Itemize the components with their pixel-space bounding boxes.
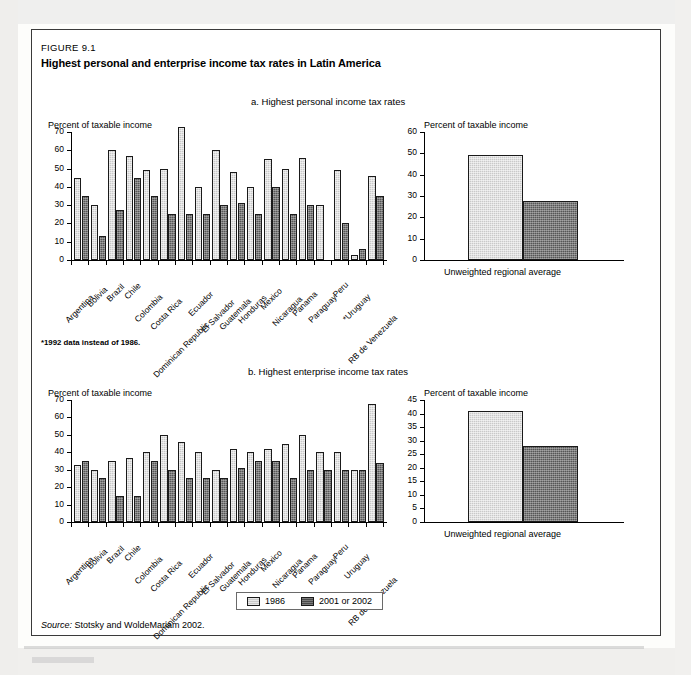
bar-2001-2002 — [238, 468, 245, 522]
x-axis — [71, 260, 387, 261]
y-tick-label: 30 — [38, 199, 64, 209]
bar-1986 — [212, 150, 219, 260]
bar-1986 — [230, 449, 237, 522]
x-tick — [158, 523, 159, 527]
bar-2001-2002 — [116, 210, 123, 260]
bar-2001-2002 — [168, 214, 175, 260]
y-tick-label: 0 — [38, 516, 64, 526]
y-tick — [420, 153, 424, 154]
y-tick — [67, 400, 71, 401]
bar-2001-2002 — [99, 236, 106, 260]
x-tick — [314, 523, 315, 527]
bar-1986 — [264, 449, 271, 522]
bar-1986 — [334, 170, 341, 260]
x-tick — [366, 523, 367, 527]
y-tick-label: 40 — [38, 446, 64, 456]
bar-2001-2002 — [186, 214, 193, 260]
bar-1986 — [108, 461, 115, 522]
bar-1986 — [143, 452, 150, 522]
y-tick-label: 40 — [391, 169, 417, 179]
x-axis — [424, 260, 624, 261]
x-tick — [192, 523, 193, 527]
x-tick — [123, 523, 124, 527]
x-tick — [140, 523, 141, 527]
figure-title: Highest personal and enterprise income t… — [41, 57, 381, 69]
bar-1986 — [247, 452, 254, 522]
x-tick — [210, 523, 211, 527]
scan-artifact-line — [24, 646, 644, 649]
x-tick — [227, 261, 228, 265]
y-tick — [67, 169, 71, 170]
bar-1986 — [247, 187, 254, 260]
y-tick-label: 50 — [38, 163, 64, 173]
category-label: Unweighted regional average — [444, 529, 561, 539]
bar-1986 — [316, 205, 323, 260]
bar-1986 — [212, 470, 219, 522]
y-tick — [420, 132, 424, 133]
y-tick-label: 30 — [391, 435, 417, 445]
y-tick-label: 60 — [38, 411, 64, 421]
x-tick — [71, 261, 72, 265]
y-tick — [67, 487, 71, 488]
bar-2001-2002 — [523, 446, 578, 522]
y-tick-label: 40 — [38, 181, 64, 191]
panel-b-country-chart: 010203040506070ArgentinaBoliviaBrazilChi… — [71, 400, 383, 522]
y-tick-label: 20 — [38, 217, 64, 227]
bar-1986 — [74, 465, 81, 523]
panel-b-average-chart: 051015202530354045Unweighted regional av… — [424, 400, 624, 522]
x-tick — [244, 261, 245, 265]
x-tick — [88, 261, 89, 265]
bar-2001-2002 — [272, 461, 279, 522]
x-tick — [192, 261, 193, 265]
bar-2001-2002 — [376, 196, 383, 260]
bar-2001-2002 — [186, 478, 193, 522]
x-tick — [331, 523, 332, 527]
panel-b-title: b. Highest enterprise income tax rates — [248, 366, 408, 377]
figure-number: FIGURE 9.1 — [41, 42, 96, 53]
x-tick — [314, 261, 315, 265]
y-tick-label: 35 — [391, 421, 417, 431]
y-tick — [67, 223, 71, 224]
bar-1986 — [468, 155, 523, 260]
x-tick — [210, 261, 211, 265]
bar-2001-2002 — [376, 463, 383, 522]
bar-2001-2002 — [523, 201, 578, 260]
y-tick-label: 0 — [38, 254, 64, 264]
bar-2001-2002 — [99, 478, 106, 522]
bar-1986 — [264, 159, 271, 260]
x-tick — [106, 523, 107, 527]
y-tick — [67, 505, 71, 506]
bar-2001-2002 — [290, 478, 297, 522]
y-tick — [420, 196, 424, 197]
bar-2001-2002 — [82, 196, 89, 260]
page-edge-right — [675, 0, 691, 675]
legend-label-1986: 1986 — [265, 596, 285, 606]
y-tick-label: 70 — [38, 126, 64, 136]
bar-1986 — [160, 169, 167, 260]
scanned-page: FIGURE 9.1 Highest personal and enterpri… — [0, 0, 691, 675]
bar-1986 — [334, 452, 341, 522]
bar-1986 — [195, 187, 202, 260]
x-tick — [244, 523, 245, 527]
bar-2001-2002 — [168, 470, 175, 522]
y-tick-label: 45 — [391, 394, 417, 404]
bar-1986 — [195, 452, 202, 522]
bar-2001-2002 — [359, 470, 366, 522]
y-axis — [71, 132, 72, 261]
bar-2001-2002 — [220, 478, 227, 522]
legend-swatch-1986-icon — [247, 597, 260, 606]
bar-1986 — [299, 435, 306, 522]
panel-a-title: a. Highest personal income tax rates — [251, 96, 405, 107]
y-tick — [67, 187, 71, 188]
y-tick-label: 10 — [391, 233, 417, 243]
y-tick — [67, 205, 71, 206]
y-tick-label: 5 — [391, 502, 417, 512]
bar-2001-2002 — [220, 205, 227, 260]
y-tick-label: 50 — [38, 429, 64, 439]
y-tick — [420, 427, 424, 428]
bar-2001-2002 — [272, 187, 279, 260]
x-tick — [123, 261, 124, 265]
y-tick — [420, 454, 424, 455]
y-tick-label: 10 — [391, 489, 417, 499]
bar-1986 — [143, 170, 150, 260]
